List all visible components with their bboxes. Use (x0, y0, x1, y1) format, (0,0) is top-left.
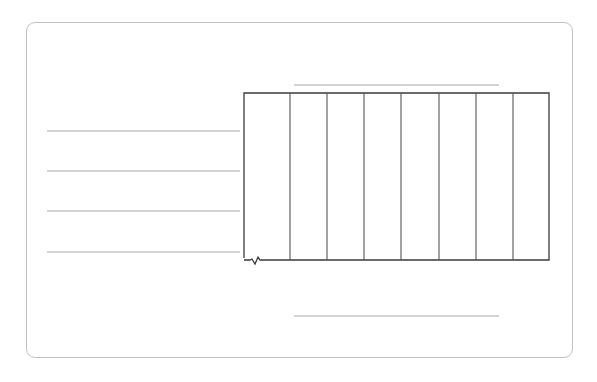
column-grid (244, 93, 549, 264)
diagram-canvas (0, 0, 597, 382)
left-blank-lines (47, 131, 240, 252)
grid-column-dividers (290, 93, 513, 260)
